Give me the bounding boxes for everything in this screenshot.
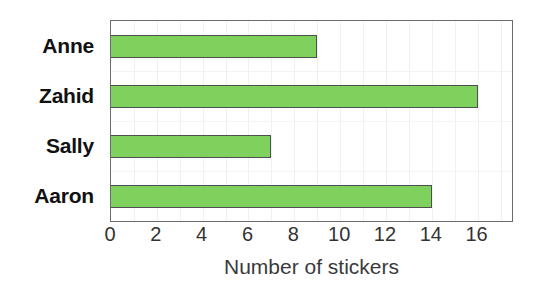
bar-zahid bbox=[111, 85, 478, 108]
plot-area bbox=[110, 20, 513, 222]
bar-aaron bbox=[111, 185, 432, 208]
gridline-horizontal bbox=[111, 71, 512, 72]
category-label-zahid: Zahid bbox=[0, 85, 94, 106]
x-tick-label-16: 16 bbox=[466, 224, 488, 244]
category-label-aaron: Aaron bbox=[0, 185, 94, 206]
bar-chart: AnneZahidSallyAaron 0246810121416 Number… bbox=[0, 0, 542, 300]
gridline-vertical bbox=[501, 21, 502, 221]
category-axis: AnneZahidSallyAaron bbox=[0, 20, 102, 222]
gridline-vertical bbox=[432, 21, 433, 221]
x-axis-title: Number of stickers bbox=[110, 256, 513, 277]
x-tick-label-12: 12 bbox=[374, 224, 396, 244]
gridline-horizontal bbox=[111, 121, 512, 122]
x-tick-label-6: 6 bbox=[242, 224, 253, 244]
category-label-anne: Anne bbox=[0, 35, 94, 56]
gridline-vertical bbox=[478, 21, 479, 221]
gridline-vertical bbox=[455, 21, 456, 221]
value-axis: 0246810121416 bbox=[110, 224, 513, 250]
x-tick-label-8: 8 bbox=[288, 224, 299, 244]
x-tick-label-14: 14 bbox=[420, 224, 442, 244]
x-tick-label-2: 2 bbox=[150, 224, 161, 244]
bar-sally bbox=[111, 135, 271, 158]
bar-anne bbox=[111, 35, 317, 58]
x-tick-label-10: 10 bbox=[328, 224, 350, 244]
x-tick-label-4: 4 bbox=[196, 224, 207, 244]
category-label-sally: Sally bbox=[0, 135, 94, 156]
gridline-horizontal bbox=[111, 171, 512, 172]
x-tick-label-0: 0 bbox=[104, 224, 115, 244]
